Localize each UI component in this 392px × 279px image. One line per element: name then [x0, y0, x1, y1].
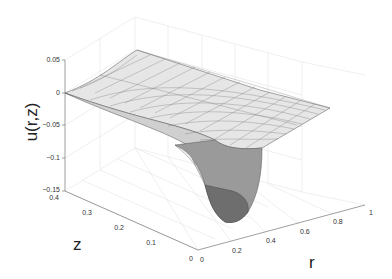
y-axis-label: z: [73, 235, 82, 254]
y-tick-label: 0.1: [146, 239, 156, 246]
z-tick-label: −0.1: [46, 154, 60, 161]
y-tick-label: 0.4: [49, 194, 59, 201]
z-tick-label: 0: [56, 89, 60, 96]
x-tick-label: 0.2: [232, 247, 242, 254]
y-tick-label: 0.2: [114, 224, 124, 231]
z-tick-label: 0.05: [46, 56, 60, 63]
x-tick-label: 0.8: [333, 218, 343, 225]
x-tick-label: 0: [200, 256, 204, 263]
x-axis-label: r: [309, 253, 315, 272]
z-tick-label: −0.05: [42, 121, 60, 128]
x-tick-label: 0.6: [300, 228, 310, 235]
z-axis-ticks: 0.05 0 −0.05 −0.1 −0.15: [42, 56, 65, 193]
z-axis-label: u(r,z): [22, 103, 41, 142]
z-tick-label: −0.15: [42, 186, 60, 193]
x-tick-label: 0.4: [266, 237, 276, 244]
y-axis-ticks: 0.4 0.3 0.2 0.1 0: [49, 194, 193, 262]
y-tick-label: 0: [189, 255, 193, 262]
y-tick-label: 0.3: [82, 209, 92, 216]
x-tick-label: 1: [369, 209, 373, 216]
surface-plot: 0.05 0 −0.05 −0.1 −0.15 0.4 0.3 0.2 0.1 …: [0, 0, 392, 279]
